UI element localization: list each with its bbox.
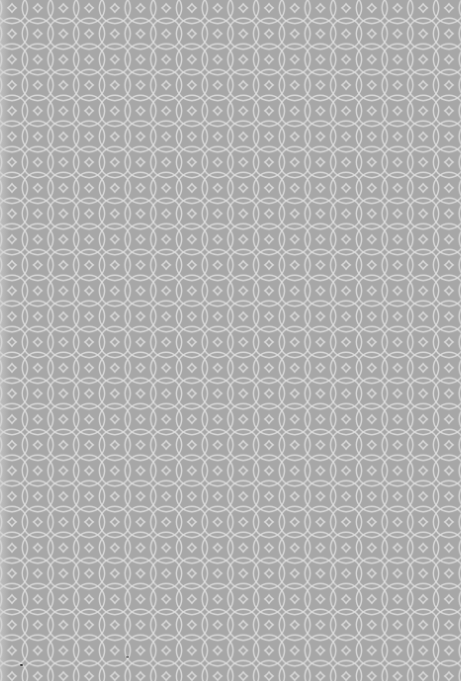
patterned-paper (0, 0, 461, 681)
dust-speck (20, 664, 23, 666)
dust-speck (126, 656, 129, 658)
circle-lattice-pattern (0, 0, 461, 681)
left-edge-highlight (0, 0, 10, 681)
